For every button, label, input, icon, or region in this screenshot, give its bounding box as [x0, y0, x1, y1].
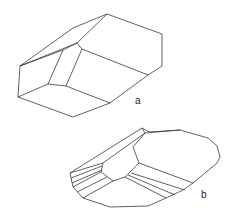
- crystal-a-label: a: [135, 96, 141, 106]
- crystal-edge: [48, 84, 66, 86]
- crystal-edge: [142, 128, 180, 133]
- crystal-b-label: b: [201, 190, 207, 200]
- crystal-edge: [139, 163, 193, 183]
- crystal-edge: [73, 172, 101, 187]
- crystal-edge: [125, 177, 166, 198]
- crystal-edge: [18, 43, 77, 97]
- crystal-diagram: [0, 0, 235, 220]
- crystal-edge: [101, 163, 139, 181]
- crystal-b: [70, 128, 220, 207]
- crystal-edge: [20, 50, 63, 66]
- crystal-edge: [70, 133, 145, 173]
- crystal-outline: [70, 128, 220, 207]
- crystal-edge: [83, 181, 113, 198]
- crystal-edge: [20, 14, 107, 66]
- crystal-edge: [77, 43, 148, 75]
